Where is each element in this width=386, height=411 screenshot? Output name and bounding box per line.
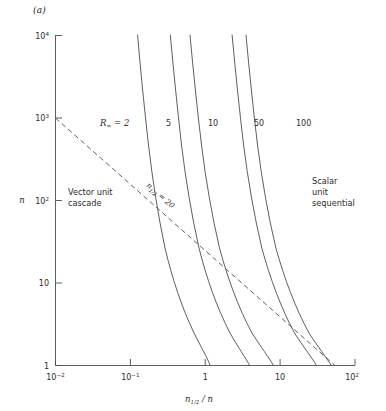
scalar-unit-line2: unit [312, 187, 329, 197]
curve-r-inf-10 [190, 35, 274, 366]
curve-label-r-eq: = 2 [111, 118, 129, 128]
dashed-line-label: n1/2 = 20 [144, 181, 177, 212]
curve-labels: R∞ = 2 5 10 50 100 [99, 118, 311, 129]
curve-label-5: 5 [166, 119, 171, 128]
y-tick-label-10000: 104 [35, 31, 49, 41]
y-axis-title: n [19, 195, 24, 205]
curve-r-inf-50 [232, 35, 316, 366]
x-tick-label-1: 1 [203, 373, 208, 382]
y-tick-exp-100: 2 [45, 196, 49, 202]
scalar-unit-line3: sequential [312, 198, 355, 208]
x-tick-exp-0p01: −2 [56, 372, 64, 378]
x-tick-exp-0p1: −1 [131, 372, 140, 378]
x-tick-label-0p1: 10−1 [121, 372, 140, 382]
scalar-unit-line1: Scalar [312, 176, 338, 186]
curve-label-10: 10 [208, 119, 218, 128]
dashed-label-tail: = 20 [155, 190, 177, 211]
x-tick-label-0p01: 10−2 [46, 372, 64, 382]
x-axis-ticks [56, 359, 356, 366]
region-annotation-right: Scalar unit sequential [312, 176, 355, 208]
x-tick-label-100: 102 [345, 372, 359, 382]
x-axis-tick-labels: 10−2 10−1 1 10 102 [46, 372, 359, 382]
figure-panel: (a) 104 103 102 10 1 n [0, 0, 386, 411]
region-annotation-left: Vector unit cascade [68, 187, 113, 208]
y-tick-label-1: 1 [44, 362, 49, 371]
dashed-line-n-half-20 [56, 118, 336, 366]
y-axis-ticks [56, 36, 63, 366]
y-tick-exp-10000: 4 [45, 31, 49, 37]
y-tick-exp-1000: 3 [45, 113, 49, 119]
chart-svg: 104 103 102 10 1 n 10−2 10−1 1 10 102 n1… [0, 0, 386, 411]
vector-unit-line2: cascade [68, 198, 102, 208]
y-axis-tick-labels: 104 103 102 10 1 [35, 31, 49, 371]
curve-label-r-inf-2: R∞ = 2 [99, 118, 129, 129]
curve-label-50: 50 [254, 119, 264, 128]
x-axis-title-tail: / n [199, 394, 213, 404]
y-tick-label-100: 102 [35, 196, 49, 206]
x-tick-exp-100: 2 [355, 372, 359, 378]
vector-unit-line1: Vector unit [68, 187, 113, 197]
x-axis-title: n1/2 / n [185, 394, 213, 405]
y-tick-label-10: 10 [39, 279, 49, 288]
x-tick-label-10: 10 [275, 373, 285, 382]
curve-label-100: 100 [296, 119, 311, 128]
y-tick-label-1000: 103 [35, 113, 49, 123]
